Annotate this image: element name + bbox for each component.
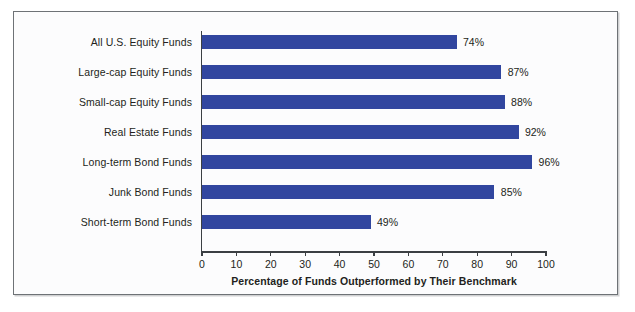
bar-row: Large-cap Equity Funds 87% bbox=[14, 57, 619, 87]
bar-track: 88% bbox=[202, 87, 546, 117]
x-axis-tick bbox=[442, 251, 443, 256]
bar-value-label: 92% bbox=[525, 125, 546, 139]
category-label: Long-term Bond Funds bbox=[83, 147, 192, 177]
bar-row: Junk Bond Funds 85% bbox=[14, 177, 619, 207]
category-label: All U.S. Equity Funds bbox=[91, 27, 192, 57]
x-axis-tick-label: 20 bbox=[265, 258, 277, 270]
x-axis-tick bbox=[201, 251, 202, 256]
x-axis-tick bbox=[373, 251, 374, 256]
bar-track: 85% bbox=[202, 177, 546, 207]
x-axis-tick-label: 0 bbox=[199, 258, 205, 270]
bar bbox=[202, 215, 371, 229]
x-axis-tick-label: 70 bbox=[437, 258, 449, 270]
bar bbox=[202, 65, 501, 79]
x-axis-tick bbox=[270, 251, 271, 256]
bar bbox=[202, 185, 494, 199]
category-label: Short-term Bond Funds bbox=[81, 207, 192, 237]
x-axis-tick-label: 60 bbox=[403, 258, 415, 270]
bar-row: Short-term Bond Funds 49% bbox=[14, 207, 619, 237]
x-axis-tick bbox=[545, 251, 546, 256]
bar-value-label: 87% bbox=[508, 65, 529, 79]
bar-value-label: 88% bbox=[511, 95, 532, 109]
x-axis-tick-label: 90 bbox=[506, 258, 518, 270]
x-axis-tick bbox=[511, 251, 512, 256]
bar-track: 87% bbox=[202, 57, 546, 87]
x-axis-tick-label: 80 bbox=[471, 258, 483, 270]
x-axis-tick-label: 50 bbox=[368, 258, 380, 270]
x-axis-tick-label: 30 bbox=[299, 258, 311, 270]
category-label: Junk Bond Funds bbox=[109, 177, 192, 207]
x-axis-title: Percentage of Funds Outperformed by Thei… bbox=[202, 275, 546, 287]
bar-value-label: 96% bbox=[539, 155, 560, 169]
category-label: Small-cap Equity Funds bbox=[79, 87, 192, 117]
bar-track: 49% bbox=[202, 207, 546, 237]
bar-value-label: 74% bbox=[463, 35, 484, 49]
bar-value-label: 49% bbox=[377, 215, 398, 229]
x-axis-tick bbox=[477, 251, 478, 256]
x-axis-tick-label: 40 bbox=[334, 258, 346, 270]
x-axis-tick-label: 100 bbox=[537, 258, 555, 270]
bar-value-label: 85% bbox=[501, 185, 522, 199]
bar bbox=[202, 125, 519, 139]
bar-row: Small-cap Equity Funds 88% bbox=[14, 87, 619, 117]
x-axis-tick bbox=[408, 251, 409, 256]
bar-track: 92% bbox=[202, 117, 546, 147]
chart-figure: All U.S. Equity Funds 74% Large-cap Equi… bbox=[13, 11, 618, 295]
plot-area: All U.S. Equity Funds 74% Large-cap Equi… bbox=[14, 12, 619, 296]
x-axis-tick-label: 10 bbox=[231, 258, 243, 270]
category-label: Real Estate Funds bbox=[104, 117, 192, 147]
bar bbox=[202, 155, 532, 169]
y-axis-line bbox=[201, 31, 203, 252]
x-axis-tick bbox=[236, 251, 237, 256]
bar bbox=[202, 35, 457, 49]
x-axis-tick bbox=[305, 251, 306, 256]
bar-row: Long-term Bond Funds 96% bbox=[14, 147, 619, 177]
x-axis-tick bbox=[339, 251, 340, 256]
bar-row: All U.S. Equity Funds 74% bbox=[14, 27, 619, 57]
category-label: Large-cap Equity Funds bbox=[78, 57, 192, 87]
bar-track: 96% bbox=[202, 147, 546, 177]
bar bbox=[202, 95, 505, 109]
bar-row: Real Estate Funds 92% bbox=[14, 117, 619, 147]
bar-track: 74% bbox=[202, 27, 546, 57]
